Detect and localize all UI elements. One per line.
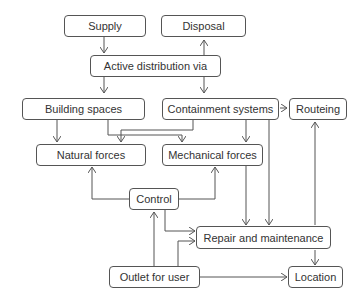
node-natural-forces: Natural forces: [36, 144, 146, 166]
node-mechanical-forces: Mechanical forces: [162, 144, 263, 166]
node-control: Control: [129, 188, 179, 210]
node-disposal: Disposal: [161, 15, 246, 37]
node-outlet-for-user: Outlet for user: [109, 266, 200, 288]
node-active-distribution: Active distribution via: [90, 55, 221, 77]
node-containment-systems: Containment systems: [162, 98, 279, 120]
node-supply: Supply: [64, 15, 146, 37]
node-repair-maintenance: Repair and maintenance: [196, 226, 331, 249]
node-building-spaces: Building spaces: [22, 98, 145, 120]
node-routeing: Routeing: [289, 98, 347, 120]
node-location: Location: [288, 266, 343, 288]
